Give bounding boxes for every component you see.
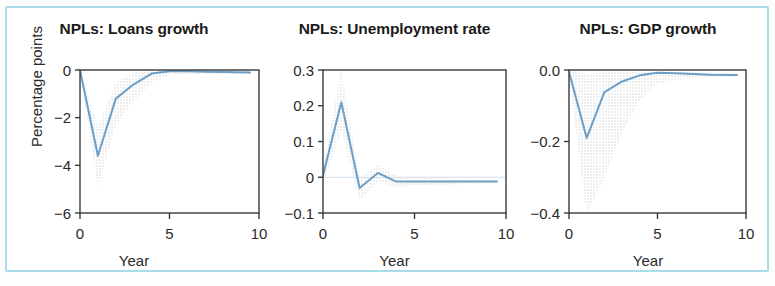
figure-root: NPLs: Loans growth Percentage points 0−2… (0, 0, 775, 286)
y-tick-label: 0 (63, 62, 71, 79)
y-tick-label: −4 (54, 157, 71, 174)
x-tick-label: 10 (498, 225, 515, 242)
y-tick-label: −0.4 (530, 205, 560, 222)
x-tick-label: 5 (410, 225, 418, 242)
plot-content (569, 70, 746, 213)
plot-content (323, 70, 506, 200)
x-axis-label: Year (268, 252, 521, 269)
x-tick-label: 10 (738, 225, 755, 242)
x-axis-label: Year (0, 252, 268, 269)
y-tick-label: 0.0 (539, 62, 560, 79)
x-tick-label: 0 (565, 225, 573, 242)
x-tick-label: 5 (653, 225, 661, 242)
y-tick-label: 0.1 (293, 133, 314, 150)
x-tick-label: 0 (319, 225, 327, 242)
chart-panel-npls-loans-growth: NPLs: Loans growth Percentage points 0−2… (0, 0, 268, 286)
confidence-band (569, 70, 737, 213)
y-tick-label: −2 (54, 109, 71, 126)
x-tick-label: 5 (165, 225, 173, 242)
confidence-band (80, 69, 250, 187)
y-tick-label: −0.2 (530, 133, 560, 150)
y-tick-label: −6 (54, 205, 71, 222)
plot-area-npls-unemployment-rate: 0.30.20.10−0.10510 (268, 0, 521, 286)
x-tick-label: 10 (251, 225, 268, 242)
x-axis-label: Year (521, 252, 775, 269)
plot-content (80, 69, 259, 187)
y-tick-label: 0 (306, 169, 314, 186)
y-tick-label: −0.1 (284, 205, 314, 222)
plot-area-npls-gdp-growth: 0.0−0.2−0.40510 (521, 0, 775, 286)
chart-panel-npls-unemployment-rate: NPLs: Unemployment rate 0.30.20.10−0.105… (268, 0, 521, 286)
chart-panel-npls-gdp-growth: NPLs: GDP growth 0.0−0.2−0.40510 Year (521, 0, 775, 286)
x-tick-label: 0 (76, 225, 84, 242)
plot-area-npls-loans-growth: 0−2−4−60510 (0, 0, 268, 286)
y-tick-label: 0.3 (293, 62, 314, 79)
y-tick-label: 0.2 (293, 97, 314, 114)
